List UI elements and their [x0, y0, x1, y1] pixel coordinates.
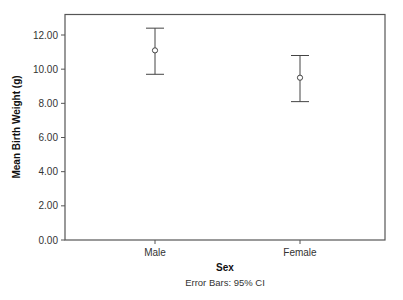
y-axis-title: Mean Birth Weight (g)	[11, 75, 22, 178]
y-tick-label: 2.00	[39, 200, 59, 211]
errorbar-female	[291, 56, 309, 102]
error-bar-chart: 0.002.004.006.008.0010.0012.00 MaleFemal…	[0, 0, 403, 300]
x-tick-label: Male	[144, 247, 166, 258]
plot-frame	[65, 15, 385, 241]
plot-border	[65, 15, 385, 241]
errorbar-male	[146, 28, 164, 74]
y-tick-label: 10.00	[33, 64, 58, 75]
mean-marker	[297, 75, 302, 80]
error-bars	[146, 28, 309, 101]
y-axis: 0.002.004.006.008.0010.0012.00	[33, 30, 65, 246]
y-tick-label: 6.00	[39, 132, 59, 143]
x-axis: MaleFemale	[144, 240, 317, 258]
error-bars-footnote: Error Bars: 95% CI	[185, 277, 265, 288]
y-tick-label: 12.00	[33, 30, 58, 41]
x-tick-label: Female	[283, 247, 317, 258]
x-axis-title: Sex	[216, 262, 234, 273]
y-tick-label: 0.00	[39, 235, 59, 246]
y-tick-label: 8.00	[39, 98, 59, 109]
mean-marker	[152, 48, 157, 53]
y-tick-label: 4.00	[39, 166, 59, 177]
